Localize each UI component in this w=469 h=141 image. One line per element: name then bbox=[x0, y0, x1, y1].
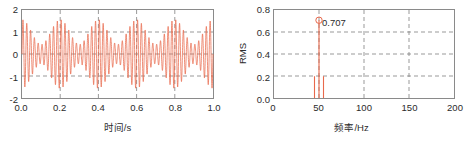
xtick-spec-4: 200 bbox=[447, 102, 463, 113]
xtick-time-4: 0.8 bbox=[169, 102, 182, 113]
xtick-spec-1: 50 bbox=[313, 102, 324, 113]
waveform-trace bbox=[22, 20, 213, 88]
panel-time-waveform: 2 1 0 -1 -2 0.0 0.2 0.4 0.6 0.8 1.0 时间/s bbox=[0, 0, 235, 141]
ytick-spec-0: 0.8 bbox=[246, 4, 270, 15]
plot-area-rms-spectrum bbox=[273, 9, 455, 99]
rms-spectrum-svg bbox=[274, 10, 454, 98]
ytick-spec-1: 0.6 bbox=[246, 26, 270, 37]
time-waveform-svg bbox=[22, 10, 213, 98]
plot-area-time-waveform bbox=[21, 9, 214, 99]
xtick-time-5: 1.0 bbox=[207, 102, 220, 113]
xtick-time-0: 0.0 bbox=[14, 102, 27, 113]
gridlines-spectrum bbox=[274, 10, 454, 98]
ytick-time-2: 0 bbox=[2, 49, 18, 60]
ytick-spec-4: 0.0 bbox=[246, 94, 270, 105]
ytick-spec-2: 0.4 bbox=[246, 49, 270, 60]
xtick-time-2: 0.4 bbox=[92, 102, 105, 113]
ytick-time-1: 1 bbox=[2, 26, 18, 37]
spectrum-stems bbox=[315, 20, 324, 98]
panel-rms-spectrum: 0.8 0.6 0.4 0.2 0.0 RMS 0 50 100 150 200… bbox=[234, 0, 469, 141]
xaxis-label-time: 时间/s bbox=[0, 120, 235, 134]
figure-container: 2 1 0 -1 -2 0.0 0.2 0.4 0.6 0.8 1.0 时间/s… bbox=[0, 0, 469, 141]
xtick-spec-0: 0 bbox=[270, 102, 275, 113]
xtick-time-3: 0.6 bbox=[130, 102, 143, 113]
xtick-spec-2: 100 bbox=[356, 102, 372, 113]
xtick-spec-3: 150 bbox=[402, 102, 418, 113]
ytick-spec-3: 0.2 bbox=[246, 71, 270, 82]
ytick-time-0: 2 bbox=[2, 4, 18, 15]
ytick-time-3: -1 bbox=[2, 71, 18, 82]
xtick-time-1: 0.2 bbox=[53, 102, 66, 113]
yaxis-label-rms: RMS bbox=[237, 34, 248, 74]
peak-value-annotation: 0.707 bbox=[322, 17, 346, 28]
xaxis-label-frequency: 频率/Hz bbox=[234, 120, 469, 134]
